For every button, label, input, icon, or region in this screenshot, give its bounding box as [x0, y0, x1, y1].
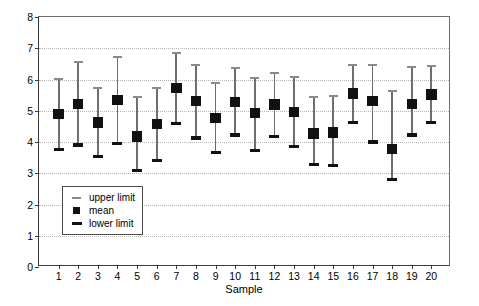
lower-limit-cap [112, 142, 122, 145]
mean-marker [387, 144, 397, 154]
y-tick-mark-3 [35, 173, 39, 174]
legend-item-mean: mean [69, 204, 135, 217]
y-tick-mark-6 [35, 80, 39, 81]
lower-limit-cap [328, 164, 338, 167]
y-tick-mark-0 [35, 267, 39, 268]
x-tick-label-11: 11 [249, 271, 260, 282]
x-tick-label-15: 15 [327, 271, 339, 282]
upper-limit-cap [388, 90, 397, 92]
lower-limit-key-icon [69, 222, 84, 225]
lower-limit-cap [211, 151, 221, 154]
x-tick-label-5: 5 [134, 271, 140, 282]
y-tick-label-5: 5 [27, 106, 33, 117]
legend-label-mean: mean [89, 206, 114, 216]
x-tick-label-2: 2 [75, 271, 81, 282]
upper-limit-cap [74, 61, 83, 63]
x-tick-mark-14 [314, 265, 315, 269]
mean-marker [53, 109, 63, 119]
gridline-y-5 [39, 111, 449, 112]
upper-limit-cap [427, 65, 436, 67]
gridline-y-3 [39, 173, 449, 174]
upper-limit-cap [368, 64, 377, 66]
mean-key-icon [69, 207, 84, 214]
mean-marker [426, 89, 436, 99]
x-tick-label-13: 13 [288, 271, 300, 282]
x-axis-title: Sample [38, 283, 450, 295]
x-tick-mark-11 [255, 265, 256, 269]
upper-limit-cap [211, 82, 220, 84]
lower-limit-cap [191, 136, 201, 139]
x-tick-label-12: 12 [269, 271, 281, 282]
y-tick-label-7: 7 [27, 43, 33, 54]
y-tick-mark-7 [35, 48, 39, 49]
x-tick-mark-7 [176, 265, 177, 269]
mean-marker [308, 128, 318, 138]
upper-limit-cap [113, 56, 122, 58]
lower-limit-cap [348, 121, 358, 124]
upper-limit-cap [329, 95, 338, 97]
legend-label-upper-limit: upper limit [89, 193, 135, 203]
upper-limit-cap [309, 96, 318, 98]
lower-limit-cap [54, 148, 64, 151]
legend-item-lower-limit: lower limit [69, 217, 135, 230]
lower-limit-cap [269, 135, 279, 138]
y-tick-label-2: 2 [27, 199, 33, 210]
x-tick-mark-15 [333, 265, 334, 269]
lower-limit-cap [93, 155, 103, 158]
upper-limit-cap [270, 72, 279, 74]
x-tick-mark-20 [431, 265, 432, 269]
lower-limit-cap [152, 159, 162, 162]
mean-marker [407, 99, 417, 109]
x-tick-label-6: 6 [154, 271, 160, 282]
x-tick-mark-8 [196, 265, 197, 269]
upper-limit-cap [191, 64, 200, 66]
x-tick-label-7: 7 [173, 271, 179, 282]
legend-item-upper-limit: upper limit [69, 191, 135, 204]
x-tick-mark-6 [157, 265, 158, 269]
upper-limit-cap [407, 66, 416, 68]
x-tick-mark-3 [98, 265, 99, 269]
x-tick-label-14: 14 [308, 271, 320, 282]
x-tick-label-20: 20 [426, 271, 438, 282]
x-tick-label-16: 16 [347, 271, 359, 282]
upper-limit-cap [133, 96, 142, 98]
lower-limit-cap [73, 143, 83, 146]
x-tick-label-19: 19 [406, 271, 418, 282]
x-tick-mark-10 [235, 265, 236, 269]
mean-marker [132, 131, 142, 141]
x-tick-label-4: 4 [115, 271, 121, 282]
whisker-line [391, 91, 393, 179]
y-tick-mark-4 [35, 142, 39, 143]
upper-limit-cap [231, 67, 240, 69]
x-tick-mark-16 [353, 265, 354, 269]
y-tick-mark-1 [35, 236, 39, 237]
x-tick-mark-17 [373, 265, 374, 269]
mean-marker [289, 107, 299, 117]
lower-limit-cap [426, 121, 436, 124]
x-tick-label-10: 10 [229, 271, 241, 282]
mean-marker [210, 113, 220, 123]
mean-marker [269, 99, 279, 109]
gridline-y-7 [39, 48, 449, 49]
x-tick-mark-5 [137, 265, 138, 269]
y-tick-mark-5 [35, 111, 39, 112]
upper-limit-key-icon [69, 197, 84, 199]
mean-marker [191, 96, 201, 106]
mean-marker [73, 99, 83, 109]
chart-legend: upper limit mean lower limit [62, 186, 143, 235]
x-tick-mark-12 [274, 265, 275, 269]
lower-limit-cap [309, 163, 319, 166]
mean-marker [112, 95, 122, 105]
upper-limit-cap [54, 78, 63, 80]
mean-marker [348, 88, 358, 98]
upper-limit-cap [250, 77, 259, 79]
mean-marker [171, 83, 181, 93]
x-tick-label-18: 18 [386, 271, 398, 282]
y-tick-label-6: 6 [27, 74, 33, 85]
upper-limit-cap [172, 52, 181, 54]
upper-limit-cap [290, 76, 299, 78]
x-tick-label-8: 8 [193, 271, 199, 282]
lower-limit-cap [407, 133, 417, 136]
lower-limit-cap [368, 140, 378, 143]
x-tick-label-3: 3 [95, 271, 101, 282]
